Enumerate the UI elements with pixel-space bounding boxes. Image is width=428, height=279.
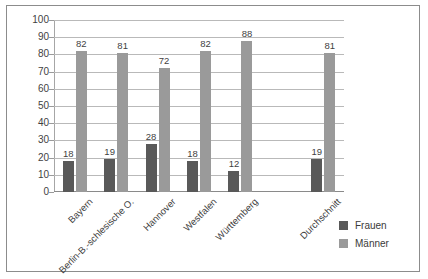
bar-manner[interactable]: [76, 51, 87, 192]
legend-swatch-icon: [339, 221, 348, 230]
y-axis-tick: [49, 72, 54, 73]
chart-figure: 1009080706050403020100 18821981287218821…: [6, 5, 420, 272]
x-axis-label-text: Berlin-B.-schlesische O.: [56, 196, 135, 275]
y-axis-tick: [49, 20, 54, 21]
bar-value-label: 19: [311, 147, 322, 157]
y-axis-tick-label: 50: [38, 101, 49, 111]
bar-manner[interactable]: [117, 53, 128, 192]
x-axis-label-text: Westfalen: [181, 196, 219, 234]
x-axis-label: Westfalen: [181, 196, 219, 234]
x-axis-label: Berlin-B.-schlesische O.: [56, 196, 135, 275]
bar-group: 1288: [228, 20, 252, 192]
x-axis-label: Hannover: [140, 196, 177, 233]
bar-value-label: 18: [187, 149, 198, 159]
bar-value-label: 88: [242, 29, 253, 39]
y-axis-tick-label: 90: [38, 32, 49, 42]
bar-manner[interactable]: [159, 68, 170, 192]
y-axis-tick-label: 80: [38, 49, 49, 59]
y-axis-tick: [49, 89, 54, 90]
bar-value-label: 82: [200, 39, 211, 49]
bar-group: 1882: [187, 20, 211, 192]
bar-manner[interactable]: [200, 51, 211, 192]
bar-group: 1882: [63, 20, 87, 192]
bar-value-label: 28: [146, 132, 157, 142]
x-axis-label: Durchschnitt: [298, 196, 343, 241]
bar-group: 2872: [146, 20, 170, 192]
legend-swatch-icon: [339, 239, 348, 248]
y-axis-tick-label: 100: [32, 15, 49, 25]
y-axis-tick-label: 60: [38, 84, 49, 94]
x-axis-label-text: Durchschnitt: [298, 196, 343, 241]
bar-frauen[interactable]: [146, 144, 157, 192]
y-axis-tick: [49, 140, 54, 141]
x-axis-label-text: Württemberg: [214, 196, 261, 243]
bar-frauen[interactable]: [228, 171, 239, 192]
x-axis-label-text: Bayern: [65, 196, 94, 225]
bar-group: 1981: [311, 20, 335, 192]
x-axis-label: Württemberg: [214, 196, 261, 243]
x-axis-label: Bayern: [65, 196, 94, 225]
y-axis-tick: [49, 158, 54, 159]
x-axis-label-text: Hannover: [140, 196, 177, 233]
bar-value-label: 82: [76, 39, 87, 49]
bar-manner[interactable]: [324, 53, 335, 192]
y-axis-tick-label: 30: [38, 135, 49, 145]
chart-legend: FrauenMänner: [339, 220, 417, 256]
bar-value-label: 19: [104, 147, 115, 157]
legend-item[interactable]: Frauen: [339, 220, 417, 231]
y-axis-tick-label: 40: [38, 118, 49, 128]
legend-item[interactable]: Männer: [339, 238, 417, 249]
bar-value-label: 81: [324, 41, 335, 51]
y-axis-tick-label: 20: [38, 153, 49, 163]
y-axis-tick: [49, 106, 54, 107]
bar-group: 1981: [104, 20, 128, 192]
y-axis-tick: [49, 54, 54, 55]
bar-value-label: 81: [117, 41, 128, 51]
y-axis-tick-label: 10: [38, 170, 49, 180]
bar-frauen[interactable]: [104, 159, 115, 192]
bar-frauen[interactable]: [187, 161, 198, 192]
bar-frauen[interactable]: [63, 161, 74, 192]
x-axis-category-labels: BayernBerlin-B.-schlesische O.HannoverWe…: [54, 192, 344, 272]
bar-value-label: 72: [159, 56, 170, 66]
y-axis-tick: [49, 37, 54, 38]
plot-area: 188219812872188212881981: [54, 20, 344, 192]
bar-manner[interactable]: [241, 41, 252, 192]
bar-frauen[interactable]: [311, 159, 322, 192]
y-axis-tick-label: 70: [38, 67, 49, 77]
y-axis-labels: 1009080706050403020100: [7, 20, 49, 192]
legend-item-label: Männer: [355, 238, 389, 249]
bar-value-label: 12: [229, 159, 240, 169]
legend-item-label: Frauen: [355, 220, 387, 231]
y-axis-tick: [49, 123, 54, 124]
bar-value-label: 18: [63, 149, 74, 159]
y-axis-tick: [49, 175, 54, 176]
